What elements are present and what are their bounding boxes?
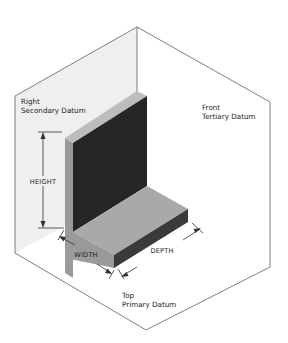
- datum-reference-frame-diagram: HEIGHT WIDTH DEPTH Right Secondary Datum…: [0, 0, 288, 343]
- svg-text:Top: Top: [121, 291, 135, 300]
- svg-text:Primary Datum: Primary Datum: [122, 300, 176, 309]
- svg-text:Front: Front: [202, 103, 220, 112]
- svg-text:Secondary Datum: Secondary Datum: [21, 106, 86, 115]
- width-label: WIDTH: [74, 251, 98, 259]
- svg-text:Right: Right: [21, 97, 40, 106]
- svg-text:Tertiary Datum: Tertiary Datum: [201, 112, 256, 121]
- depth-label: DEPTH: [150, 247, 173, 255]
- height-label: HEIGHT: [30, 178, 57, 186]
